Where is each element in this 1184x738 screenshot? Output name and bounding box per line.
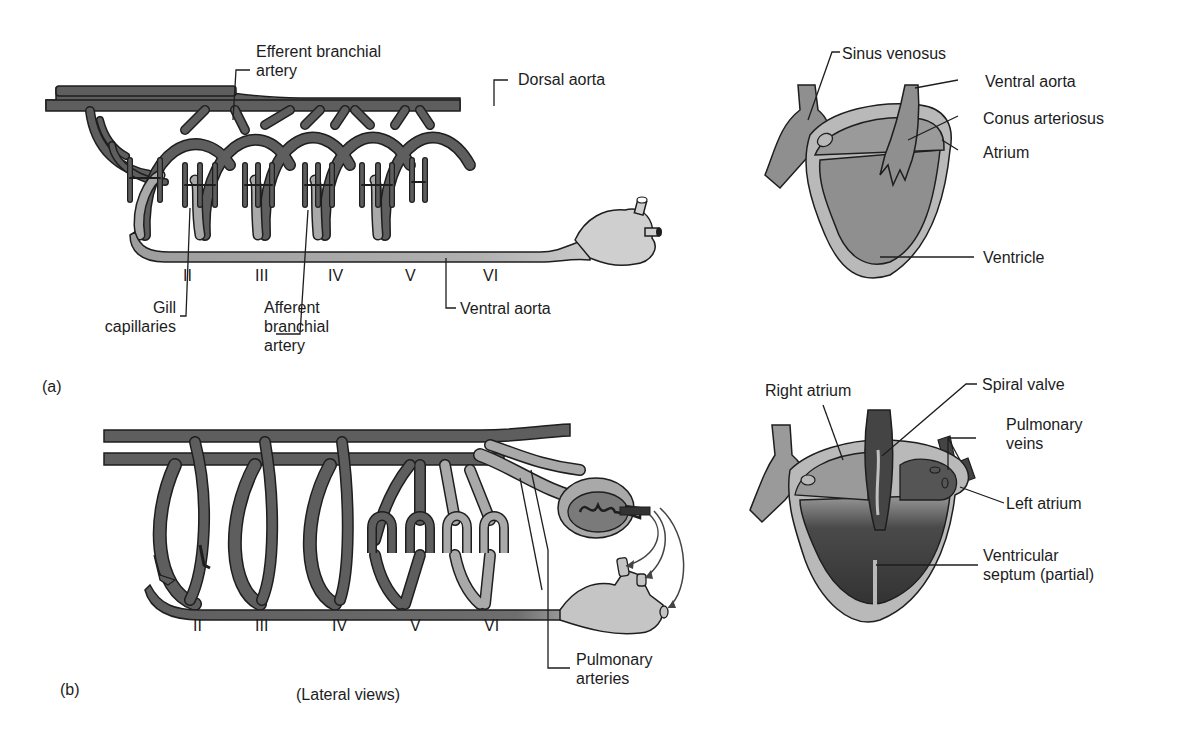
label-pulmonary-veins: Pulmonary veins <box>1006 415 1082 453</box>
label-left-atrium: Left atrium <box>1006 494 1082 513</box>
panel-b-heart-drawing <box>0 0 1184 738</box>
figure-stage: Efferent branchial artery Dorsal aorta I… <box>0 0 1184 738</box>
label-spiral-valve: Spiral valve <box>982 375 1065 394</box>
label-ventricular-septum: Ventricular septum (partial) <box>983 546 1094 584</box>
label-right-atrium: Right atrium <box>765 381 851 400</box>
